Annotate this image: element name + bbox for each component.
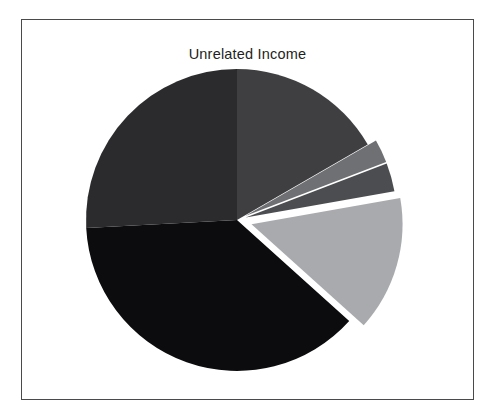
figure-root: Unrelated Income (0, 0, 497, 420)
pie-slice-group (86, 69, 403, 371)
pie-slice (86, 69, 237, 228)
pie-chart (22, 20, 475, 401)
chart-frame: Unrelated Income (21, 19, 474, 400)
